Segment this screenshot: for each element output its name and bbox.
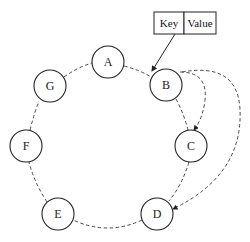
key-label: Key bbox=[160, 17, 179, 29]
ring-edge-e-f bbox=[29, 162, 47, 202]
svg-text:D: D bbox=[153, 207, 162, 221]
svg-text:G: G bbox=[46, 79, 55, 93]
node-a: A bbox=[92, 46, 124, 78]
hash-ring-diagram: Key Value A B C D E F G bbox=[0, 0, 250, 242]
ring-edge-a-b bbox=[124, 66, 151, 77]
node-f: F bbox=[10, 130, 42, 162]
ring-edge-d-e bbox=[73, 220, 142, 228]
svg-text:F: F bbox=[23, 139, 30, 153]
svg-text:B: B bbox=[162, 78, 170, 92]
node-d: D bbox=[141, 198, 173, 230]
svg-text:A: A bbox=[104, 55, 113, 69]
svg-text:C: C bbox=[187, 139, 195, 153]
value-label: Value bbox=[187, 17, 212, 29]
node-c: C bbox=[175, 130, 207, 162]
key-pointer-arrow bbox=[152, 34, 175, 71]
node-e: E bbox=[42, 198, 74, 230]
ring-edge-b-c bbox=[176, 99, 188, 130]
node-b: B bbox=[150, 69, 182, 101]
replica-arrow-b-c bbox=[180, 72, 205, 130]
node-g: G bbox=[34, 70, 66, 102]
key-value-box: Key Value bbox=[154, 12, 216, 34]
ring-edge-f-g bbox=[30, 101, 39, 130]
ring-edge-g-a bbox=[64, 63, 92, 77]
ring-edge-c-d bbox=[169, 162, 189, 201]
svg-text:E: E bbox=[54, 207, 61, 221]
